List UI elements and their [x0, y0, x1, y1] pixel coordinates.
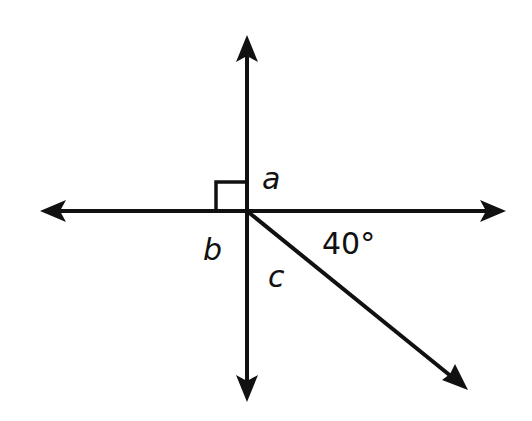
angle-diagram: a b c 40° [0, 0, 532, 421]
label-c: c [268, 262, 285, 292]
label-b: b [203, 235, 222, 265]
right-angle-marker [216, 182, 247, 211]
label-angle-40: 40° [322, 229, 375, 259]
diagram-lines [0, 0, 532, 421]
arrow-ray-icon [442, 364, 468, 390]
label-a: a [262, 164, 280, 194]
